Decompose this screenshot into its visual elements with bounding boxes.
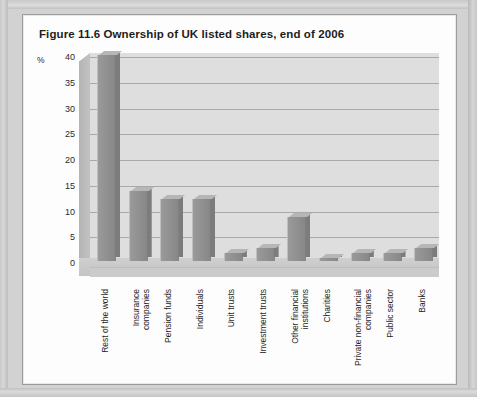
x-axis-label: Investment trusts [258, 289, 268, 369]
x-axis-label: Banks [417, 289, 427, 369]
x-axis-label: Insurance companies [131, 289, 151, 369]
bar [129, 191, 151, 261]
bar [192, 199, 214, 261]
y-axis-tick: 5 [70, 232, 75, 242]
scan-right-edge [468, 0, 477, 397]
bar-front-face [351, 253, 370, 261]
bar-side-face [305, 213, 310, 257]
bar-front-face [97, 55, 116, 261]
bar-front-face [256, 248, 275, 261]
y-axis-tick: 0 [70, 258, 75, 268]
bar-side-face [115, 51, 120, 257]
x-axis-label: Pension funds [163, 289, 173, 369]
bar [319, 258, 341, 261]
bar [97, 55, 119, 261]
y-axis-tick: 35 [65, 78, 75, 88]
bar-front-face [224, 253, 243, 261]
bar [287, 217, 309, 261]
scan-left-edge [0, 0, 8, 397]
y-axis-unit-label: % [37, 55, 45, 65]
figure-title: Figure 11.6 Ownership of UK listed share… [39, 28, 344, 40]
bar-front-face [192, 199, 211, 261]
bar-chart: % 4035302520151050 Rest of the worldInsu… [33, 49, 446, 373]
y-axis-tick-labels: 4035302520151050 [45, 49, 75, 273]
scan-bottom-edge [0, 388, 477, 397]
y-axis-tick: 25 [65, 129, 75, 139]
figure-page-card: Figure 11.6 Ownership of UK listed share… [22, 14, 457, 385]
y-axis-tick: 15 [65, 181, 75, 191]
x-axis-label: Rest of the world [100, 289, 110, 369]
bar-front-face [414, 248, 433, 261]
x-axis-label: Charities [322, 289, 332, 369]
bar-front-face [129, 191, 148, 261]
scan-top-edge [0, 0, 477, 9]
y-axis-tick: 30 [65, 104, 75, 114]
y-axis-tick: 40 [65, 52, 75, 62]
bar-front-face [160, 199, 179, 261]
bar [414, 248, 436, 261]
bar-side-face [178, 195, 183, 257]
bar [383, 253, 405, 261]
plot-floor-front [90, 267, 439, 277]
bar [351, 253, 373, 261]
x-axis-label: Public sector [385, 289, 395, 369]
bar-side-face [147, 187, 152, 257]
x-axis-label: Unit trusts [226, 289, 236, 369]
plot-area [79, 53, 439, 283]
bar [224, 253, 246, 261]
bar [256, 248, 278, 261]
bar-series [90, 53, 439, 267]
x-axis-category-labels: Rest of the worldInsurance companiesPens… [79, 287, 439, 373]
bar-front-face [319, 258, 338, 261]
bar-front-face [287, 217, 306, 261]
x-axis-label: Individuals [195, 289, 205, 369]
plot-left-wall [79, 53, 90, 267]
bar-top-face [321, 254, 344, 258]
y-axis-tick: 10 [65, 207, 75, 217]
bar-front-face [383, 253, 402, 261]
bar [160, 199, 182, 261]
x-axis-label: Private non-financial companies [353, 289, 373, 369]
y-axis-tick: 20 [65, 155, 75, 165]
x-axis-label: Other financial institutions [290, 289, 310, 369]
bar-side-face [210, 195, 215, 257]
